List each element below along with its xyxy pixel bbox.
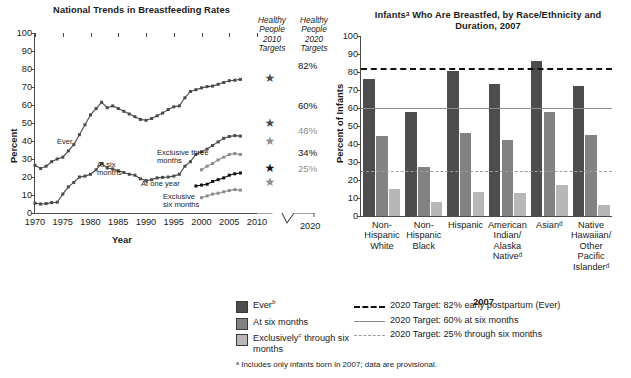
left-series-marker [56,201,59,204]
left-series-marker [122,110,125,113]
legend-swatch-icon [236,318,248,330]
legend-line-column: 2020 Target: 82% early postpartum (Ever)… [354,300,631,358]
left-y-tickmark [31,213,35,214]
left-series-marker [239,153,242,156]
legend-swatch-row-2: Exclusivelyc through six months [236,333,354,354]
left-series-marker [228,189,231,192]
right-y-tickmark [357,162,361,163]
left-y-tick-40: 40 [8,136,32,146]
left-series-label-2: Exclusive three months [157,149,213,166]
right-y-tick-30: 30 [334,157,358,167]
left-y-tick-60: 60 [8,100,32,110]
left-series-marker [239,172,242,175]
left-series-marker [189,90,192,93]
hp2010-header-line1: Healthy [252,16,292,25]
left-series-label-3: At one year [141,180,191,188]
category-label-line: Alaska [479,241,535,251]
left-chart-x-tick-2020: 2020 [300,221,320,231]
target-line-60 [361,108,612,109]
left-x-tick-1990: 1990 [136,217,156,227]
bar-2-2 [473,192,485,216]
left-x-tick-1995: 1995 [164,217,184,227]
hp2020-value-0: 82% [298,60,317,71]
left-series-marker [50,201,53,204]
left-series-marker [172,105,175,108]
left-y-tick-10: 10 [8,190,32,200]
legend-swatch-row-1: At six months [236,317,354,330]
left-series-marker [111,104,114,107]
right-y-tickmark [357,36,361,37]
left-x-tick-1975: 1975 [53,217,73,227]
hp2020-header-line1: Healthy [294,16,334,25]
left-y-tick-80: 80 [8,64,32,74]
hp2020-value-4: 25% [298,163,317,174]
right-y-tick-70: 70 [334,85,358,95]
legend-line-row-2: 2020 Target: 25% through six months [354,329,631,340]
left-series-marker [84,123,87,126]
bar-2-1 [431,202,443,216]
left-series-marker [222,137,225,140]
left-y-tick-70: 70 [8,82,32,92]
category-label-line: Indian/ [479,230,535,240]
bar-0-3 [489,84,501,216]
right-y-tickmark [357,180,361,181]
left-y-tick-30: 30 [8,154,32,164]
left-series-marker [217,158,220,161]
bar-1-3 [502,140,514,216]
left-x-tick-2000: 2000 [191,217,211,227]
legend-line-icon [354,316,385,326]
left-series-marker [156,114,159,117]
left-series-marker [106,106,109,109]
bar-0-4 [531,61,543,216]
left-series-marker [228,174,231,177]
right-y-tick-60: 60 [334,103,358,113]
left-series-marker [89,113,92,116]
left-series-marker [217,192,220,195]
left-series-marker [228,135,231,138]
left-series-marker [233,188,236,191]
left-series-marker [117,107,120,110]
left-series-marker [228,153,231,156]
category-label-line: Hawaiian/ [563,230,619,240]
left-series-marker [228,79,231,82]
left-chart-plot-area: 0102030405060708090100 19701975198019851… [34,33,257,214]
category-label-line: Native [563,220,619,230]
left-series-marker [194,88,197,91]
left-series-marker [45,202,48,205]
right-y-tickmark [357,198,361,199]
left-series-marker [161,112,164,115]
left-x-tick-1980: 1980 [80,217,100,227]
left-series-marker [56,158,59,161]
hp2010-star-2: ★ [265,135,276,147]
legend-line-label: 2020 Target: 60% at six months [390,315,519,326]
legend-line-row-1: 2020 Target: 60% at six months [354,315,631,326]
left-series-label-4: Exclusive six months [163,193,205,210]
left-series-marker [172,175,175,178]
category-label-line: Hispanic [396,230,452,240]
left-series-marker [89,173,92,176]
right-y-tickmark [357,126,361,127]
left-series-marker [200,168,203,171]
left-series-marker [206,183,209,186]
bar-2-4 [556,185,568,216]
left-series-marker [233,172,236,175]
left-series-label-1: At six months [97,161,131,178]
legend-line-icon [354,301,385,311]
bar-0-0 [363,79,375,216]
right-y-tick-90: 90 [334,49,358,59]
left-series-marker [100,101,103,104]
left-series-marker [211,144,214,147]
left-x-tick-1970: 1970 [25,217,45,227]
right-y-tickmark [357,72,361,73]
legend-line-label: 2020 Target: 25% through six months [390,329,542,340]
hp2020-value-3: 34% [298,146,317,157]
left-series-marker [34,202,37,205]
left-series-marker [194,185,197,188]
right-y-tickmark [357,216,361,217]
left-series-marker [239,135,242,138]
left-series-marker [133,174,136,177]
left-series-marker [67,149,70,152]
left-series-label-0: Ever [57,138,97,146]
left-series-marker [45,165,48,168]
right-y-tickmark [357,144,361,145]
